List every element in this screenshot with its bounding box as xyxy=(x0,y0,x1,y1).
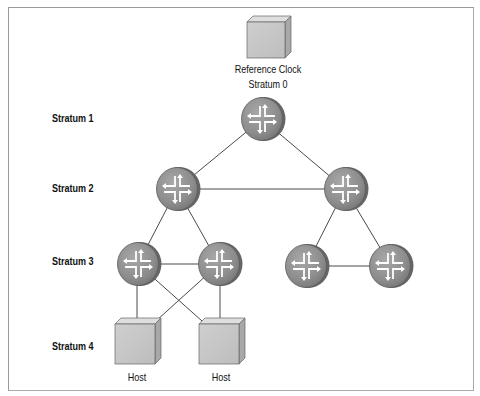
host-icon-1 xyxy=(115,318,161,364)
router-icon-stratum3-c xyxy=(286,244,330,288)
stratum-1-label: Stratum 1 xyxy=(52,112,94,124)
host-icon-2 xyxy=(199,318,245,364)
router-icon-stratum3-b xyxy=(199,242,243,286)
host-2-label: Host xyxy=(205,370,238,385)
reference-clock-caption: Reference Clock Stratum 0 xyxy=(227,62,309,92)
router-icon-stratum3-a xyxy=(118,242,162,286)
host-1-label: Host xyxy=(121,370,154,385)
router-icon-stratum2-left xyxy=(157,167,201,211)
stratum-4-label: Stratum 4 xyxy=(52,340,94,352)
reference-clock-icon xyxy=(247,16,291,58)
router-icon-stratum3-d xyxy=(370,244,414,288)
links xyxy=(137,119,391,322)
router-icon-stratum1 xyxy=(242,97,286,141)
stratum-3-label: Stratum 3 xyxy=(52,255,94,267)
stratum-2-label: Stratum 2 xyxy=(52,182,94,194)
reference-clock-label: Reference Clock xyxy=(227,62,309,77)
router-icon-stratum2-right xyxy=(325,167,369,211)
stratum-0-label: Stratum 0 xyxy=(227,77,309,92)
stratum-diagram xyxy=(0,0,480,396)
